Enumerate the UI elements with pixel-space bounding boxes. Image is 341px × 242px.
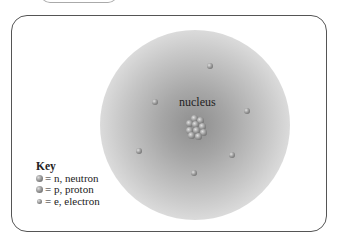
proton-sphere-icon [36,186,43,193]
electron [136,148,142,154]
legend-text: = e, electron [45,196,100,208]
legend-item-electron: = e, electron [36,196,100,208]
electron-sphere-icon [37,199,42,204]
electron [191,170,197,176]
legend-text: = p, proton [45,184,94,196]
nucleus-label: nucleus [179,95,216,110]
legend: Key = n, neutron = p, proton = e, electr… [36,161,100,207]
electron [244,108,250,114]
electron [229,152,235,158]
nucleon [188,132,195,139]
electron [152,99,158,105]
legend-title: Key [36,161,100,173]
electron [207,63,213,69]
nucleon [195,133,202,140]
legend-item-proton: = p, proton [36,184,100,196]
partial-box-above [40,0,118,3]
neutron-sphere-icon [36,175,43,182]
